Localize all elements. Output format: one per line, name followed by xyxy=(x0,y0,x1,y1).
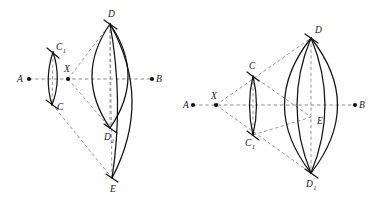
point-label-X-left: X xyxy=(63,64,71,74)
dashed-ray-c1-e-right xyxy=(253,117,311,135)
dashed-ray-c-e-left xyxy=(52,104,112,178)
point-dot-A-left xyxy=(27,77,31,81)
dashed-ray-x-d1-left xyxy=(68,79,110,128)
arc-inner-arc-right-right xyxy=(311,38,325,173)
point-label-A-left: A xyxy=(16,74,23,84)
dashed-chord-c1-c-left xyxy=(52,53,53,104)
arc-big-lens-left-right xyxy=(285,38,312,173)
point-label-D1-left: D1 xyxy=(103,132,114,144)
point-label-D1-right: D1 xyxy=(305,179,316,191)
dashed-ray-x-d-left xyxy=(68,24,110,79)
tick-d-right xyxy=(305,34,318,43)
point-label-B-right: B xyxy=(359,100,365,110)
point-dot-X-left xyxy=(66,77,70,81)
arc-small-lens-right-right xyxy=(253,76,257,135)
point-label-E-left: E xyxy=(109,184,116,194)
arc-big-lens-right-right xyxy=(311,38,338,173)
arc-big-lens-left-left xyxy=(92,24,110,128)
construction-canvas: AXBC1CDD1EAXBCC1DED1 xyxy=(0,0,370,202)
dashed-ray-c-e-right xyxy=(253,76,311,117)
panel-left: AXBC1CDD1E xyxy=(16,9,162,194)
point-dot-B-left xyxy=(150,77,154,81)
geometry-figure: AXBC1CDD1EAXBCC1DED1 xyxy=(0,0,370,202)
point-label-C1-right: C1 xyxy=(245,138,255,150)
arc-small-lens-left-right xyxy=(250,76,254,135)
tick-c-right xyxy=(247,72,259,81)
point-label-D-right: D xyxy=(314,25,322,35)
point-label-B-left: B xyxy=(156,74,162,84)
point-label-E-right: E xyxy=(316,116,323,126)
point-dot-B-right xyxy=(353,103,357,107)
arc-inner-arc-left-right xyxy=(297,38,311,173)
point-label-C-right: C xyxy=(249,61,256,71)
point-dot-A-right xyxy=(191,103,195,107)
point-label-X-right: X xyxy=(210,91,218,101)
panel-right: AXBCC1DED1 xyxy=(182,25,365,191)
point-label-C1-left: C1 xyxy=(56,42,66,54)
point-label-D-left: D xyxy=(107,9,115,19)
point-label-C-left: C xyxy=(57,102,64,112)
point-dot-X-right xyxy=(214,103,218,107)
point-label-A-right: A xyxy=(182,100,189,110)
